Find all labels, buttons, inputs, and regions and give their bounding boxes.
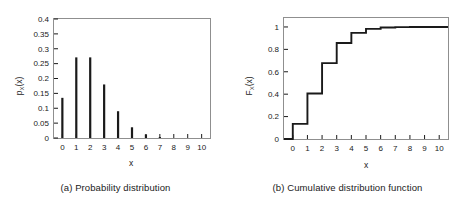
cdf-x-axis-title: x xyxy=(364,160,369,170)
svg-text:FX(x): FX(x) xyxy=(244,76,255,95)
panel-cumulative-distribution: 00.20.40.60.81 012345678910 FX(x) x (b) … xyxy=(232,0,463,203)
pmf-y-tick-label: 0.25 xyxy=(33,59,49,68)
panel-a-caption: (a) Probability distribution xyxy=(0,182,231,193)
pmf-x-tick-label: 6 xyxy=(144,143,149,152)
cdf-ylabel-tail: (x) xyxy=(244,76,254,86)
pmf-y-tick-label: 0 xyxy=(45,134,50,143)
cdf-x-tick-label: 6 xyxy=(378,144,383,153)
pmf-y-tick-label: 0.15 xyxy=(33,89,49,98)
pmf-x-tick-label: 0 xyxy=(60,143,65,152)
pmf-ylabel-tail: (x) xyxy=(14,77,24,87)
panel-b-caption: (b) Cumulative distribution function xyxy=(232,182,463,193)
pmf-y-tick-label: 0.4 xyxy=(38,15,50,24)
cdf-y-tick-label: 0.6 xyxy=(268,68,280,77)
pmf-bar xyxy=(103,84,105,138)
pmf-y-tick-label: 0.05 xyxy=(33,119,49,128)
pmf-x-tick-label: 4 xyxy=(116,143,121,152)
cdf-y-tick-label: 0 xyxy=(275,135,280,144)
cdf-y-axis-title: FX(x) xyxy=(244,76,255,95)
pmf-y-tick-label: 0.35 xyxy=(33,30,49,39)
pmf-plot: 00.050.10.150.20.250.30.350.4 0123456789… xyxy=(0,0,231,203)
cdf-x-tick-label: 9 xyxy=(422,144,427,153)
pmf-y-tick-label: 0.2 xyxy=(38,74,50,83)
pmf-bar xyxy=(89,57,91,138)
pmf-x-axis-title: x xyxy=(129,158,134,168)
cdf-x-tick-label: 2 xyxy=(320,144,325,153)
pmf-bar xyxy=(75,57,77,138)
pmf-x-tick-label: 9 xyxy=(185,143,190,152)
pmf-y-tick-label: 0.3 xyxy=(38,45,50,54)
cdf-x-tick-label: 0 xyxy=(291,144,296,153)
pmf-y-axis-ticks: 00.050.10.150.20.250.30.350.4 xyxy=(33,15,58,143)
cdf-x-tick-label: 4 xyxy=(349,144,354,153)
pmf-x-tick-label: 5 xyxy=(130,143,135,152)
cdf-y-tick-label: 0.8 xyxy=(268,45,280,54)
pmf-x-tick-label: 2 xyxy=(88,143,93,152)
cdf-y-tick-label: 1 xyxy=(275,23,280,32)
pmf-y-axis-title: pX(x) xyxy=(14,77,25,96)
pmf-y-tick-label: 0.1 xyxy=(38,104,50,113)
pmf-bar xyxy=(117,111,119,138)
cdf-y-tick-label: 0.4 xyxy=(268,90,280,99)
cdf-plot: 00.20.40.60.81 012345678910 FX(x) x xyxy=(232,0,463,203)
cdf-y-tick-label: 0.2 xyxy=(268,112,280,121)
cdf-x-tick-label: 8 xyxy=(408,144,413,153)
panel-probability-distribution: 00.050.10.150.20.250.30.350.4 0123456789… xyxy=(0,0,231,203)
pmf-bar xyxy=(145,134,147,138)
pmf-bar xyxy=(61,98,63,138)
pmf-x-tick-label: 1 xyxy=(74,143,79,152)
pmf-x-tick-label: 10 xyxy=(197,143,206,152)
cdf-x-tick-label: 3 xyxy=(334,144,339,153)
svg-text:pX(x): pX(x) xyxy=(14,77,25,96)
cdf-x-tick-label: 1 xyxy=(305,144,310,153)
pmf-bar xyxy=(131,127,133,138)
pmf-bar xyxy=(159,137,161,138)
cdf-x-tick-label: 10 xyxy=(435,144,444,153)
pmf-x-tick-label: 3 xyxy=(102,143,107,152)
poisson-figure-pair: 00.050.10.150.20.250.30.350.4 0123456789… xyxy=(0,0,463,203)
cdf-x-tick-label: 5 xyxy=(364,144,369,153)
pmf-x-tick-label: 8 xyxy=(172,143,177,152)
cdf-x-tick-label: 7 xyxy=(393,144,398,153)
pmf-x-tick-label: 7 xyxy=(158,143,163,152)
